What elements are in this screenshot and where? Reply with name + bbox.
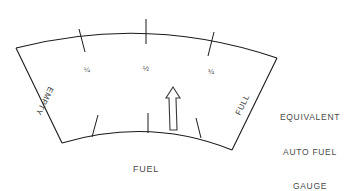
caption-line-equivalent: EQUIVALENT [274, 112, 346, 124]
gauge-inner-arc [62, 132, 232, 150]
inner-tick-quarter [92, 115, 98, 137]
fuel-gauge-diagram: ¼ ½ ¾ EMPTY FULL FUEL EQUIVALENT AUTO FU… [0, 0, 346, 191]
gauge-left-edge [16, 48, 62, 143]
fuel-level-needle [166, 87, 180, 130]
fuel-caption: FUEL [0, 164, 292, 174]
scale-label-quarter: ¼ [84, 65, 91, 74]
inner-tick-three-quarter [196, 118, 201, 138]
edge-label-full: FULL [234, 93, 252, 117]
outer-tick-quarter [79, 29, 85, 52]
outer-tick-three-quarter [208, 32, 214, 56]
caption-line-auto-fuel: AUTO FUEL [274, 147, 346, 159]
caption-line-gauge: GAUGE [274, 181, 346, 191]
scale-label-half: ½ [143, 64, 150, 73]
scale-label-three-quarter: ¾ [208, 67, 215, 76]
equivalent-auto-fuel-gauge-caption: EQUIVALENT AUTO FUEL GAUGE [274, 89, 346, 191]
